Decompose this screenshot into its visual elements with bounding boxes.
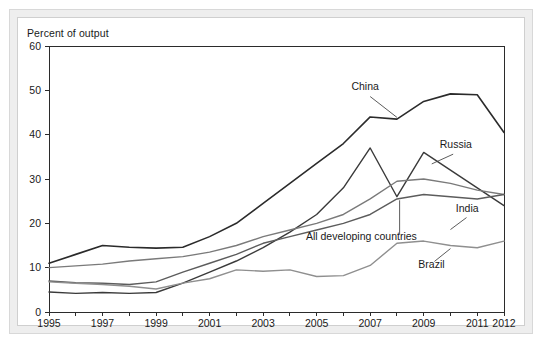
y-tick-label: 60 <box>29 40 41 52</box>
x-tick-label: 2005 <box>305 317 329 329</box>
y-tick-label: 20 <box>29 217 41 229</box>
leader-line-india <box>450 218 466 230</box>
y-tick-label: 50 <box>29 84 41 96</box>
leader-line-china <box>370 97 397 118</box>
x-tick-label: 1995 <box>37 317 61 329</box>
x-tick-label: 2011 <box>466 317 489 329</box>
series-label-india: India <box>456 202 479 214</box>
x-tick-label: 2003 <box>251 317 275 329</box>
series-line-russia <box>49 148 504 293</box>
x-tick-label: 1997 <box>91 317 115 329</box>
series-line-india <box>49 179 504 268</box>
y-axis-tick-labels: 0102030405060 <box>29 40 41 318</box>
y-tick-label: 0 <box>35 306 41 318</box>
y-tick-label: 40 <box>29 128 41 140</box>
series-label-all-developing-countries: All developing countries <box>306 230 417 242</box>
line-chart: 0102030405060 19951997199920012003200520… <box>0 0 544 344</box>
series-label-china: China <box>351 80 379 92</box>
x-tick-label: 2009 <box>412 317 436 329</box>
series-line-china <box>49 94 504 263</box>
x-axis-tick-labels: 1995199719992001200320052007200920112012 <box>37 317 516 329</box>
series-label-russia: Russia <box>440 138 472 150</box>
series-annotations: ChinaRussiaIndiaAll developing countries… <box>306 80 479 269</box>
x-tick-label: 2007 <box>358 317 382 329</box>
chart-figure: Percent of output 0102030405060 19951997… <box>0 0 544 344</box>
x-tick-label: 2012 <box>492 317 516 329</box>
y-tick-label: 30 <box>29 173 41 185</box>
x-tick-label: 1999 <box>144 317 168 329</box>
x-tick-label: 2001 <box>198 317 222 329</box>
series-label-brazil: Brazil <box>418 258 444 270</box>
y-tick-label: 10 <box>29 261 41 273</box>
